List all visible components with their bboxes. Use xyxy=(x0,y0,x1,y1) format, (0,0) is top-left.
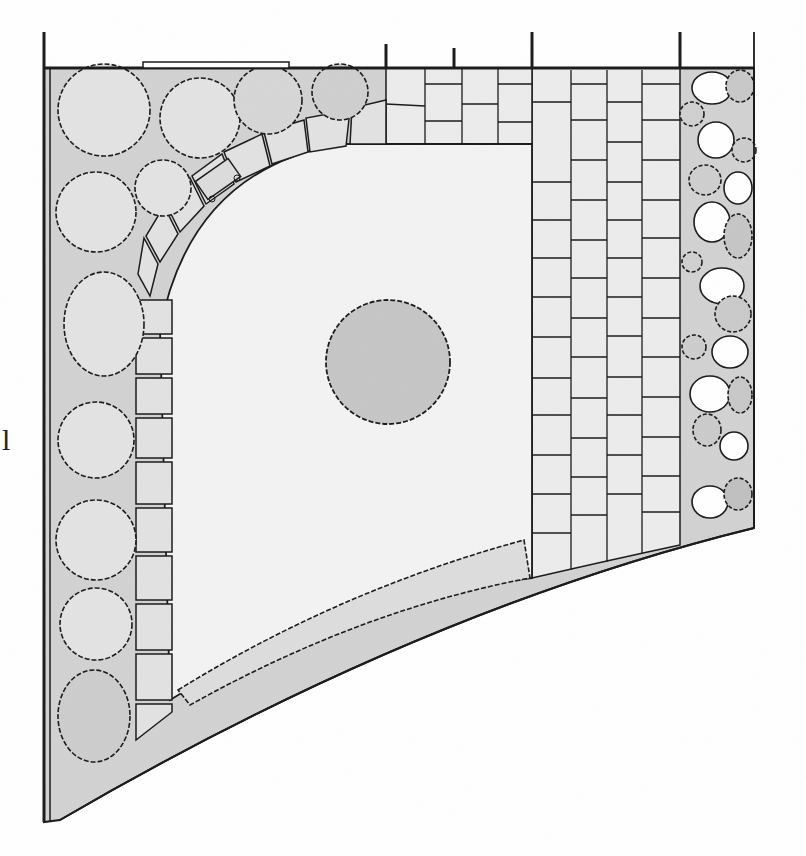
garden-plan-drawing: l xyxy=(0,0,806,856)
text-fragment: l xyxy=(2,425,10,455)
garden-plan-svg xyxy=(0,0,806,856)
